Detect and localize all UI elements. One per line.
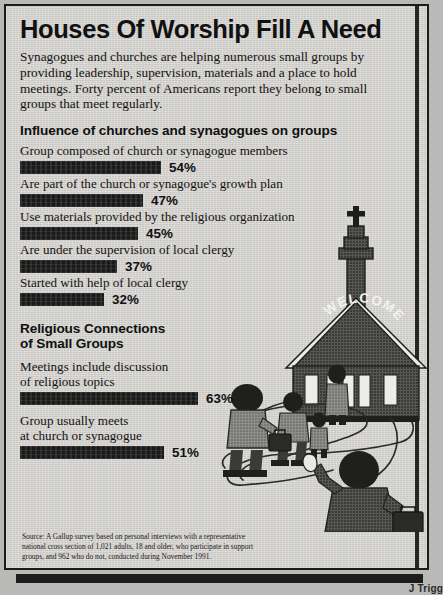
bar-fill	[20, 194, 143, 207]
bar-label-line2: at church or synagogue	[20, 428, 142, 443]
bar-value: 54%	[169, 160, 196, 175]
bar-label-line1: Group usually meets	[20, 413, 128, 428]
bar-item: Group composed of church or synagogue me…	[20, 144, 413, 175]
bar-item: Are part of the church or synagogue's gr…	[20, 177, 413, 208]
page-title: Houses Of Worship Fill A Need	[20, 16, 413, 42]
bar-fill	[20, 446, 164, 459]
bar-label: Started with help of local clergy	[20, 276, 413, 291]
bar-label: Meetings include discussion of religious…	[20, 360, 413, 390]
bar-fill	[20, 227, 138, 240]
bar-value: 37%	[125, 259, 152, 274]
bar-item: Are under the supervision of local clerg…	[20, 243, 413, 274]
bar-value: 32%	[112, 292, 139, 307]
bar-fill	[20, 293, 104, 306]
bar-label-line1: Meetings include discussion	[20, 359, 168, 374]
section2-heading: Religious Connections of Small Groups	[20, 321, 413, 351]
bar-label: Group usually meets at church or synagog…	[20, 414, 413, 444]
bar-label: Are under the supervision of local clerg…	[20, 243, 413, 258]
bar-fill	[20, 260, 117, 273]
bar-fill	[20, 392, 198, 405]
section2-heading-line2: of Small Groups	[20, 336, 124, 351]
chart-section-influence: Influence of churches and synagogues on …	[20, 123, 413, 307]
source-note: Source: A Gallup survey based on persona…	[22, 532, 258, 562]
briefcase-icon-2	[393, 512, 423, 532]
section1-heading: Influence of churches and synagogues on …	[20, 123, 413, 138]
bar-value: 45%	[146, 226, 173, 241]
bar-item: Group usually meets at church or synagog…	[20, 414, 413, 460]
figure-man-waving-foreground	[303, 451, 423, 532]
section2-heading-line1: Religious Connections	[20, 321, 165, 336]
infographic-page: WELCOME	[0, 0, 443, 595]
intro-paragraph: Synagogues and churches are helping nume…	[20, 49, 392, 112]
bar-fill	[20, 161, 161, 174]
bar-item: Started with help of local clergy 32%	[20, 276, 413, 307]
bar-value: 51%	[172, 445, 199, 460]
bar-value: 63%	[206, 391, 233, 406]
bar-label-line2: of religious topics	[20, 374, 115, 389]
artist-credit: J Trigg	[0, 583, 443, 594]
bar-label: Use materials provided by the religious …	[20, 210, 413, 225]
bar-value: 47%	[151, 193, 178, 208]
bottom-rule	[16, 574, 423, 583]
bar-item: Meetings include discussion of religious…	[20, 360, 413, 406]
chart-section-connections: Religious Connections of Small Groups Me…	[20, 321, 413, 460]
newsprint-panel: WELCOME	[4, 4, 429, 570]
bar-label: Are part of the church or synagogue's gr…	[20, 177, 413, 192]
bar-label: Group composed of church or synagogue me…	[20, 144, 413, 159]
bar-item: Use materials provided by the religious …	[20, 210, 413, 241]
